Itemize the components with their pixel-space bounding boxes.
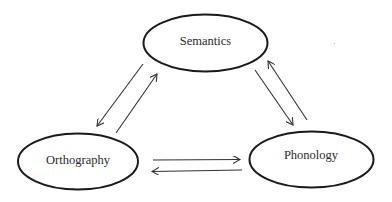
semantics-label: Semantics [180,34,232,48]
arrow-orthography-to-phonology [153,160,240,161]
artifact-dot [334,43,335,44]
arrow-semantics-to-orthography [97,64,143,126]
triad-diagram: Semantics Orthography Phonology [0,0,392,202]
arrow-phonology-to-semantics [268,61,307,120]
node-phonology: Phonology [250,132,374,188]
phonology-label: Phonology [284,148,339,162]
node-semantics: Semantics [144,15,268,72]
node-orthography: Orthography [18,134,138,190]
arrow-orthography-to-semantics [116,74,157,133]
arrow-phonology-to-orthography [152,170,242,172]
arrow-semantics-to-phonology [255,70,293,125]
orthography-label: Orthography [46,153,111,167]
